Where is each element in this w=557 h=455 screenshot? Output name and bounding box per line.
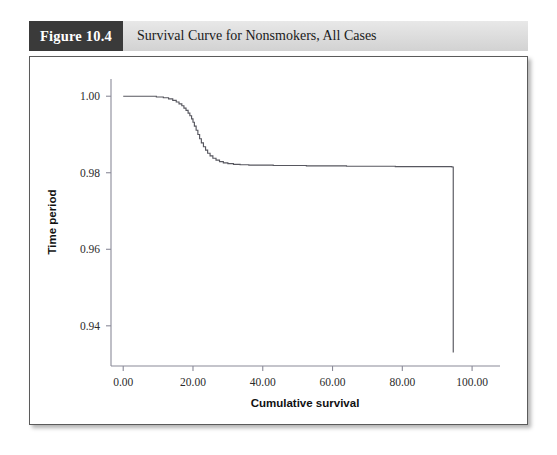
y-axis-title: Time period — [46, 190, 58, 255]
figure-caption-bar: Figure 10.4 Survival Curve for Nonsmoker… — [29, 21, 528, 51]
y-tick-label: 0.94 — [80, 320, 100, 332]
figure-caption-title: Survival Curve for Nonsmokers, All Cases — [123, 21, 528, 51]
survival-curve-line — [123, 96, 453, 352]
y-axis-ticks: 0.940.960.981.00 — [80, 90, 111, 332]
x-tick-label: 60.00 — [320, 376, 346, 388]
x-tick-label: 100.00 — [456, 376, 488, 388]
chart-panel: 0.940.960.981.00 0.0020.0040.0060.0080.0… — [29, 56, 528, 425]
x-axis-ticks: 0.0020.0040.0060.0080.00100.00 — [113, 366, 488, 388]
y-tick-label: 0.98 — [80, 167, 100, 179]
y-tick-label: 0.96 — [80, 243, 100, 255]
x-tick-label: 40.00 — [250, 376, 276, 388]
x-axis-title: Cumulative survival — [251, 397, 360, 409]
figure-number-badge: Figure 10.4 — [29, 21, 123, 51]
x-tick-label: 80.00 — [389, 376, 415, 388]
figure-container: Figure 10.4 Survival Curve for Nonsmoker… — [0, 0, 557, 455]
x-tick-label: 20.00 — [180, 376, 206, 388]
y-tick-label: 1.00 — [80, 90, 100, 102]
survival-curve-chart: 0.940.960.981.00 0.0020.0040.0060.0080.0… — [30, 57, 527, 424]
x-tick-label: 0.00 — [113, 376, 133, 388]
